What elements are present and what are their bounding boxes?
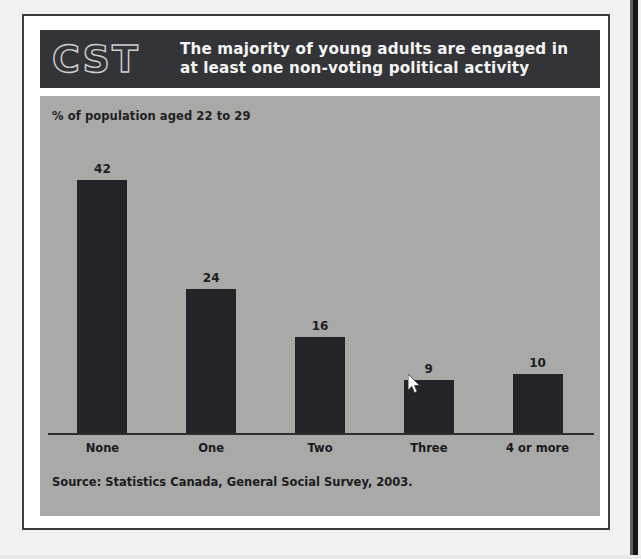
bar-none[interactable]: 42 bbox=[77, 163, 127, 434]
bar-rect[interactable] bbox=[513, 374, 563, 434]
figure-header-band: CST The majority of young adults are eng… bbox=[40, 30, 600, 88]
x-axis-baseline bbox=[48, 433, 594, 435]
category-label-one: One bbox=[157, 441, 266, 455]
figure-frame: CST The majority of young adults are eng… bbox=[22, 14, 610, 530]
bar-rect[interactable] bbox=[77, 180, 127, 434]
bar-rect[interactable] bbox=[404, 380, 454, 434]
bar-value-label: 16 bbox=[312, 320, 329, 332]
source-band: Source: Statistics Canada, General Socia… bbox=[40, 463, 600, 513]
bar-rect[interactable] bbox=[186, 289, 236, 434]
category-label-two: Two bbox=[266, 441, 375, 455]
category-label-row: NoneOneTwoThree4 or more bbox=[48, 441, 592, 465]
bar-value-label: 42 bbox=[94, 163, 111, 175]
scan-edge-dark bbox=[633, 0, 638, 559]
scan-edge-bottom bbox=[0, 555, 641, 559]
bar-value-label: 10 bbox=[529, 357, 546, 369]
category-label-three: Three bbox=[374, 441, 483, 455]
plot-area: 422416910 bbox=[48, 144, 592, 434]
scanned-page: CST The majority of young adults are eng… bbox=[0, 0, 641, 559]
category-label-4-or-more: 4 or more bbox=[483, 441, 592, 455]
bar-rect[interactable] bbox=[295, 337, 345, 434]
category-label-none: None bbox=[48, 441, 157, 455]
source-note: Source: Statistics Canada, General Socia… bbox=[52, 475, 413, 489]
bar-4-or-more[interactable]: 10 bbox=[513, 357, 563, 434]
figure-title: The majority of young adults are engaged… bbox=[180, 40, 600, 77]
cst-logo: CST bbox=[40, 40, 180, 78]
bar-two[interactable]: 16 bbox=[295, 320, 345, 434]
bar-three[interactable]: 9 bbox=[404, 363, 454, 434]
bar-value-label: 24 bbox=[203, 272, 220, 284]
chart-panel: % of population aged 22 to 29 422416910 … bbox=[40, 96, 600, 516]
y-axis-unit-label: % of population aged 22 to 29 bbox=[52, 109, 251, 123]
figure-inner: CST The majority of young adults are eng… bbox=[26, 18, 606, 526]
bar-one[interactable]: 24 bbox=[186, 272, 236, 434]
bar-value-label: 9 bbox=[425, 363, 433, 375]
